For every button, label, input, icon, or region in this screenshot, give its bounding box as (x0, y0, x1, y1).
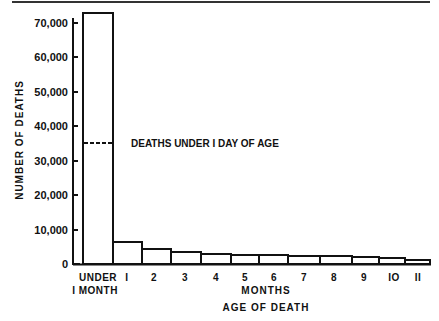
x-label-month: IO (388, 272, 400, 283)
bar-month-7 (288, 256, 320, 264)
bar-under-1-month (83, 13, 113, 264)
bar-month-9 (352, 257, 379, 264)
bar-month-4 (201, 254, 231, 264)
y-tick-label: 0 (62, 258, 68, 270)
x-label-month: 5 (242, 272, 248, 283)
x-label-month: 6 (271, 272, 277, 283)
x-label-month: 9 (361, 272, 367, 283)
y-ticks (73, 23, 80, 264)
bar-month-10 (379, 258, 405, 264)
x-label-month: 7 (301, 272, 307, 283)
bar-month-11 (405, 260, 430, 264)
x-label-under: UNDER (79, 272, 117, 283)
x-label-month: 8 (331, 272, 337, 283)
bar-month-5 (231, 255, 259, 264)
x-label-month: II (415, 272, 422, 283)
bar-month-2 (142, 249, 171, 264)
x-label-month: I (125, 272, 128, 283)
bar-month-6 (259, 255, 288, 264)
y-axis-title: NUMBER OF DEATHS (14, 80, 25, 200)
bar-month-3 (171, 252, 201, 264)
y-tick-label: 70,000 (34, 17, 68, 29)
y-tick-label: 30,000 (34, 155, 68, 167)
bar-month-8 (320, 256, 352, 264)
y-tick-label: 50,000 (34, 86, 68, 98)
y-tick-label: 60,000 (34, 51, 68, 63)
x-label-1-month: I MONTH (72, 285, 118, 296)
bar-chart: 70,000 60,000 50,000 40,000 30,000 20,00… (0, 0, 439, 321)
annotation-under-1-day: DEATHS UNDER I DAY OF AGE (131, 138, 279, 149)
y-tick-label: 40,000 (34, 120, 68, 132)
x-label-month: 3 (182, 272, 188, 283)
bar-month-1 (113, 242, 142, 264)
y-tick-label: 20,000 (34, 189, 68, 201)
x-label-month: 4 (213, 272, 219, 283)
x-axis-title: AGE OF DEATH (223, 302, 310, 313)
x-axis-subtitle: MONTHS (241, 285, 290, 296)
y-tick-labels: 70,000 60,000 50,000 40,000 30,000 20,00… (34, 17, 68, 270)
x-label-month: 2 (151, 272, 157, 283)
y-tick-label: 10,000 (34, 224, 68, 236)
